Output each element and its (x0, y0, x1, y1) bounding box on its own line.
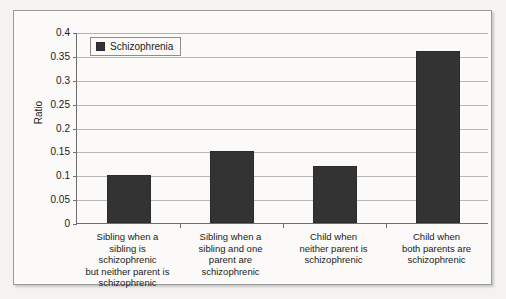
plot-area (76, 33, 488, 224)
chart-frame: Ratio 00.050.10.150.20.250.30.350.4 Sibl… (13, 10, 492, 285)
bar (313, 166, 357, 223)
y-axis-tick-mark (73, 81, 77, 82)
y-axis-tick-mark (73, 152, 77, 153)
y-axis-tick-labels: 00.050.10.150.20.250.30.350.4 (34, 33, 70, 224)
legend-item-label: Schizophrenia (110, 41, 173, 52)
y-axis-tick-mark (73, 176, 77, 177)
y-axis-tick-mark (73, 129, 77, 130)
chart-figure: Ratio 00.050.10.150.20.250.30.350.4 Sibl… (0, 0, 506, 299)
x-axis-category-label: Sibling when asibling isschizophrenicbut… (76, 231, 179, 289)
x-axis-tick-mark (180, 223, 181, 228)
y-axis-tick-label: 0.25 (51, 100, 70, 110)
y-axis-tick-label: 0.3 (56, 76, 70, 86)
bar (416, 51, 460, 223)
y-axis-tick-label: 0.4 (56, 28, 70, 38)
y-axis-tick-label: 0.05 (51, 195, 70, 205)
schizophrenia-swatch-icon (96, 42, 105, 51)
bar (210, 151, 254, 223)
bar (107, 175, 151, 223)
x-axis-tick-mark (283, 223, 284, 228)
x-axis-category-label: Sibling when asibling and oneparent ares… (179, 231, 282, 277)
x-axis-category-label: Child whenneither parent isschizophrenic (282, 231, 385, 266)
y-axis-tick-mark (73, 33, 77, 34)
x-axis-category-label: Child whenboth parents areschizophrenic (385, 231, 488, 266)
y-axis-tick-mark (73, 224, 77, 225)
gridline (77, 33, 488, 34)
x-axis-category-labels: Sibling when asibling isschizophrenicbut… (76, 231, 488, 287)
chart-legend: Schizophrenia (90, 37, 181, 56)
y-axis-tick-mark (73, 200, 77, 201)
y-axis-tick-mark (73, 105, 77, 106)
y-axis-tick-label: 0.2 (56, 124, 70, 134)
y-axis-tick-label: 0.1 (56, 171, 70, 181)
y-axis-tick-label: 0.35 (51, 52, 70, 62)
y-axis-tick-label: 0 (64, 219, 70, 229)
y-axis-tick-label: 0.15 (51, 147, 70, 157)
y-axis-tick-mark (73, 57, 77, 58)
x-axis-tick-mark (386, 223, 387, 228)
